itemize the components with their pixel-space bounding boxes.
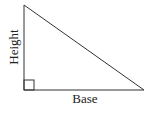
triangle [24,5,144,90]
height-label: Height [6,29,21,65]
right-triangle-diagram: Height Base [0,0,149,113]
right-angle-marker [24,80,34,90]
base-label: Base [72,91,98,106]
